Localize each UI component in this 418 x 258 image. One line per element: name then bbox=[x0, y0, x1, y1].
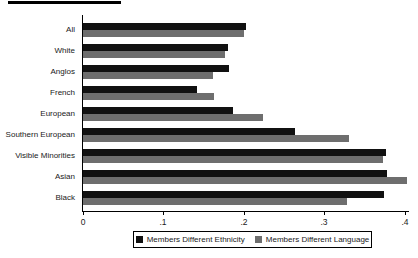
bar-anglos-series1 bbox=[83, 65, 229, 72]
x-tick-mark-p3 bbox=[324, 212, 325, 215]
legend-swatch-language bbox=[255, 236, 262, 243]
x-tick-label-p4: .4 bbox=[390, 218, 418, 227]
category-label-european: European bbox=[0, 110, 75, 118]
bar-southern-european-series1 bbox=[83, 128, 295, 135]
bar-white-series1 bbox=[83, 44, 228, 51]
bar-white-series2 bbox=[83, 51, 225, 58]
legend-swatch-ethnicity bbox=[136, 236, 143, 243]
category-label-anglos: Anglos bbox=[0, 68, 75, 76]
legend: Members Different Ethnicity Members Diff… bbox=[133, 231, 372, 248]
bar-asian-series1 bbox=[83, 170, 387, 177]
x-tick-mark-0 bbox=[83, 212, 84, 215]
bar-all-series2 bbox=[83, 30, 244, 37]
bar-visible-minorities-series2 bbox=[83, 156, 383, 163]
category-label-white: White bbox=[0, 47, 75, 55]
legend-item-language: Members Different Language bbox=[255, 236, 369, 244]
x-tick-label-0: 0 bbox=[68, 218, 98, 227]
bar-asian-series2 bbox=[83, 177, 407, 184]
x-tick-label-p3: .3 bbox=[309, 218, 339, 227]
category-label-all: All bbox=[0, 26, 75, 34]
bar-european-series2 bbox=[83, 114, 263, 121]
x-tick-mark-p4 bbox=[405, 212, 406, 215]
legend-label-language: Members Different Language bbox=[266, 236, 369, 244]
bar-black-series2 bbox=[83, 198, 347, 205]
bar-french-series2 bbox=[83, 93, 214, 100]
category-label-visible-minorities: Visible Minorities bbox=[0, 152, 75, 160]
bar-french-series1 bbox=[83, 86, 197, 93]
plot-area: AllWhiteAnglosFrenchEuropeanSouthern Eur… bbox=[82, 15, 409, 212]
legend-label-ethnicity: Members Different Ethnicity bbox=[147, 236, 245, 244]
bar-southern-european-series2 bbox=[83, 135, 349, 142]
x-tick-label-p2: .2 bbox=[229, 218, 259, 227]
top-left-rule-artifact bbox=[8, 1, 121, 4]
category-label-french: French bbox=[0, 89, 75, 97]
bar-black-series1 bbox=[83, 191, 384, 198]
bar-visible-minorities-series1 bbox=[83, 149, 386, 156]
bar-european-series1 bbox=[83, 107, 233, 114]
bar-anglos-series2 bbox=[83, 72, 213, 79]
category-label-asian: Asian bbox=[0, 173, 75, 181]
x-tick-mark-p1 bbox=[163, 212, 164, 215]
category-label-black: Black bbox=[0, 194, 75, 202]
bar-all-series1 bbox=[83, 23, 246, 30]
category-label-southern-european: Southern European bbox=[0, 131, 75, 139]
x-tick-mark-p2 bbox=[244, 212, 245, 215]
x-tick-label-p1: .1 bbox=[148, 218, 178, 227]
legend-item-ethnicity: Members Different Ethnicity bbox=[136, 236, 245, 244]
bar-chart-figure: AllWhiteAnglosFrenchEuropeanSouthern Eur… bbox=[0, 0, 418, 258]
